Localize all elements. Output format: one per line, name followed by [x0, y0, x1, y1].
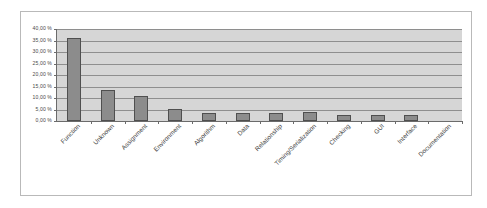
- x-axis-category-label: Relationship: [254, 123, 283, 152]
- bar: [202, 113, 216, 121]
- bar: [337, 115, 351, 121]
- y-axis-tick-label: 10,00 %: [33, 95, 52, 100]
- x-axis-category-label: Checking: [328, 123, 351, 146]
- y-axis-tick-label: 35,00 %: [33, 38, 52, 43]
- chart-frame: 0,00 %5,00 %10,00 %15,00 %20,00 %25,00 %…: [20, 11, 472, 196]
- x-axis-category-label-text: GUI: [373, 123, 385, 135]
- x-axis-category-label-text: Environment: [153, 123, 183, 153]
- plot-area: 0,00 %5,00 %10,00 %15,00 %20,00 %25,00 %…: [56, 29, 462, 122]
- bar: [101, 90, 115, 122]
- x-axis-category-label-text: Unknown: [92, 123, 115, 146]
- bar: [134, 96, 148, 121]
- x-axis-category-label-text: Function: [60, 123, 82, 145]
- y-axis-tick-label: 25,00 %: [33, 61, 52, 66]
- y-axis-tick-label: 40,00 %: [33, 26, 52, 31]
- x-axis-category-label-text: Algorithm: [193, 123, 217, 147]
- x-axis-category-label: Unknown: [92, 123, 115, 146]
- bar: [371, 115, 385, 121]
- y-axis-tick-label: 0,00 %: [36, 118, 52, 123]
- x-axis-category-label: Documentation: [418, 123, 453, 158]
- bar: [404, 115, 418, 121]
- bar: [303, 112, 317, 121]
- bar: [236, 113, 250, 122]
- bar: [269, 113, 283, 122]
- x-axis-labels-group: FunctionUnknownAssignmentEnvironmentAlgo…: [56, 123, 461, 193]
- x-axis-category-label: GUI: [373, 123, 385, 135]
- x-axis-tick: [462, 121, 463, 124]
- y-axis-tick-label: 30,00 %: [33, 49, 52, 54]
- y-axis-tick-label: 20,00 %: [33, 72, 52, 77]
- x-axis-category-label: Interface: [397, 123, 419, 145]
- y-axis-tick-label: 15,00 %: [33, 84, 52, 89]
- x-axis-category-label-text: Documentation: [418, 123, 453, 158]
- x-axis-category-label-text: Checking: [328, 123, 351, 146]
- x-axis-category-label: Assignment: [121, 123, 149, 151]
- y-axis-tick: [54, 121, 57, 122]
- x-axis-category-label-text: Assignment: [121, 123, 149, 151]
- bar: [67, 38, 81, 121]
- x-axis-category-label-text: Interface: [397, 123, 419, 145]
- bar-series: [57, 29, 462, 121]
- bar: [168, 109, 182, 121]
- x-axis-category-label: Data: [236, 123, 250, 137]
- x-axis-category-label-text: Data: [236, 123, 250, 137]
- x-axis-category-label: Environment: [153, 123, 183, 153]
- x-axis-category-label-text: Relationship: [254, 123, 283, 152]
- y-axis-tick-label: 5,00 %: [36, 107, 52, 112]
- x-axis-category-label: Algorithm: [193, 123, 217, 147]
- x-axis-category-label: Function: [60, 123, 82, 145]
